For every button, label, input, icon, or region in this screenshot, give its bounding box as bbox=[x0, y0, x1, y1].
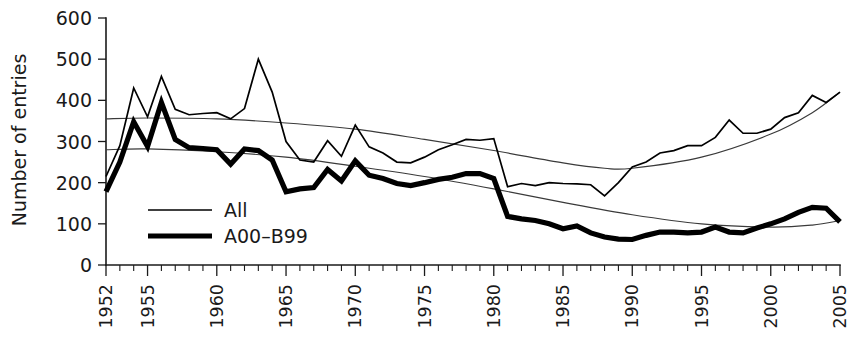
x-tick-label: 1990 bbox=[622, 284, 642, 329]
legend-label: All bbox=[224, 199, 248, 221]
x-tick-label: 1952 bbox=[96, 284, 116, 329]
y-tick-label: 500 bbox=[56, 48, 92, 70]
x-tick-label: 1965 bbox=[276, 284, 296, 329]
y-axis-title: Number of entries bbox=[8, 54, 30, 227]
line-chart: 0100200300400500600 Number of entries 19… bbox=[0, 0, 852, 347]
chart-legend: AllA00–B99 bbox=[148, 199, 308, 247]
trend-curve bbox=[106, 92, 840, 169]
x-tick-label: 2005 bbox=[830, 284, 850, 329]
x-tick-label: 1975 bbox=[415, 284, 435, 329]
y-tick-label: 400 bbox=[56, 89, 92, 111]
chart-container: 0100200300400500600 Number of entries 19… bbox=[0, 0, 852, 347]
x-tick-label: 1985 bbox=[553, 284, 573, 329]
trend-curve bbox=[106, 149, 840, 227]
y-tick-labels: 0100200300400500600 bbox=[56, 7, 92, 276]
series-line-a00-b99 bbox=[106, 102, 840, 239]
x-axis-group: 1952195519601965197019751980198519901995… bbox=[96, 265, 850, 329]
x-tick-label: 1995 bbox=[692, 284, 712, 329]
x-tick-marks bbox=[106, 265, 840, 276]
x-tick-labels: 1952195519601965197019751980198519901995… bbox=[96, 284, 850, 329]
y-tick-label: 200 bbox=[56, 172, 92, 194]
legend-label: A00–B99 bbox=[224, 225, 308, 247]
y-tick-label: 0 bbox=[80, 254, 92, 276]
y-tick-marks bbox=[98, 18, 106, 265]
y-tick-label: 300 bbox=[56, 131, 92, 153]
x-tick-label: 2000 bbox=[761, 284, 781, 329]
y-axis-group: 0100200300400500600 Number of entries bbox=[8, 7, 106, 276]
x-tick-label: 1970 bbox=[345, 284, 365, 329]
y-tick-label: 600 bbox=[56, 7, 92, 29]
x-tick-label: 1960 bbox=[207, 284, 227, 329]
x-tick-label: 1980 bbox=[484, 284, 504, 329]
x-tick-label: 1955 bbox=[138, 284, 158, 329]
y-tick-label: 100 bbox=[56, 213, 92, 235]
